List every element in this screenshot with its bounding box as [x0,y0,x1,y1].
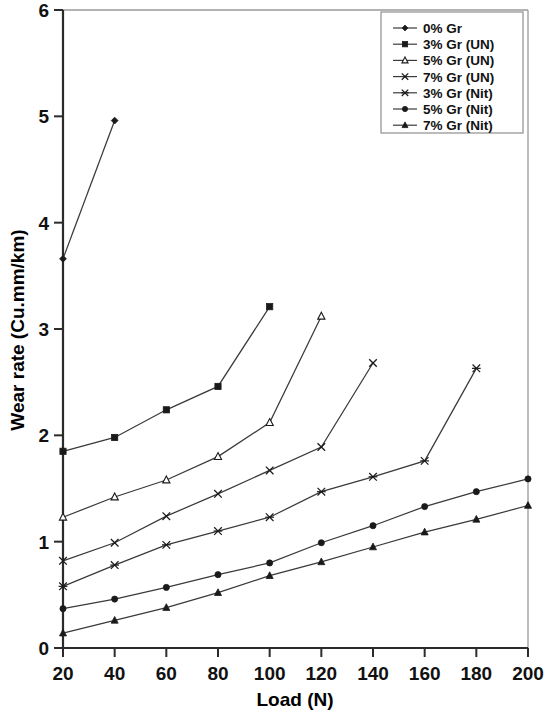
data-point-circle-filled [422,503,428,509]
x-axis-title: Load (N) [256,689,333,710]
y-tick-label: 2 [38,425,49,446]
y-tick-label: 5 [38,106,49,127]
legend-item-label: 5% Gr (UN) [423,53,494,68]
data-point-square-filled [267,304,273,310]
data-point-square-filled [215,383,221,389]
data-point-circle-filled [163,584,169,590]
data-point-circle-filled [525,476,531,482]
x-tick-label: 160 [409,663,441,684]
y-axis-title: Wear rate (Cu.mm/km) [7,229,28,430]
chart-legend: 0% Gr3% Gr (UN)5% Gr (UN)7% Gr (UN)3% Gr… [381,12,523,133]
data-point-circle-filled [215,572,221,578]
legend-item-label: 7% Gr (Nit) [423,118,493,133]
y-tick-label: 1 [38,532,49,553]
legend-item-label: 3% Gr (UN) [423,37,494,52]
data-point-square-filled [60,448,66,454]
x-tick-label: 200 [512,663,544,684]
y-tick-label: 4 [38,213,49,234]
y-tick-label: 0 [38,638,49,659]
x-tick-label: 60 [156,663,177,684]
x-tick-label: 180 [460,663,492,684]
x-tick-label: 140 [357,663,389,684]
x-tick-label: 40 [104,663,125,684]
chart-svg: 0123456 20406080100120140160180200 Load … [0,0,557,718]
data-point-circle-filled [370,523,376,529]
legend-item-label: 0% Gr [423,21,463,36]
x-tick-label: 20 [52,663,73,684]
data-point-square-filled [163,407,169,413]
legend-item-label: 7% Gr (UN) [423,70,494,85]
x-tick-label: 120 [305,663,337,684]
data-point-square-filled [402,42,407,47]
legend-item-label: 5% Gr (Nit) [423,102,493,117]
data-point-circle-filled [318,540,324,546]
data-point-circle-filled [112,596,118,602]
data-point-circle-filled [60,606,66,612]
data-point-circle-filled [402,106,407,111]
legend-item-label: 3% Gr (Nit) [423,86,493,101]
y-tick-label: 3 [38,319,49,340]
y-tick-label: 6 [38,0,49,21]
wear-rate-vs-load-chart: 0123456 20406080100120140160180200 Load … [0,0,557,718]
data-point-circle-filled [267,560,273,566]
data-point-square-filled [112,434,118,440]
data-point-circle-filled [473,489,479,495]
x-tick-label: 80 [207,663,228,684]
x-tick-label: 100 [254,663,286,684]
